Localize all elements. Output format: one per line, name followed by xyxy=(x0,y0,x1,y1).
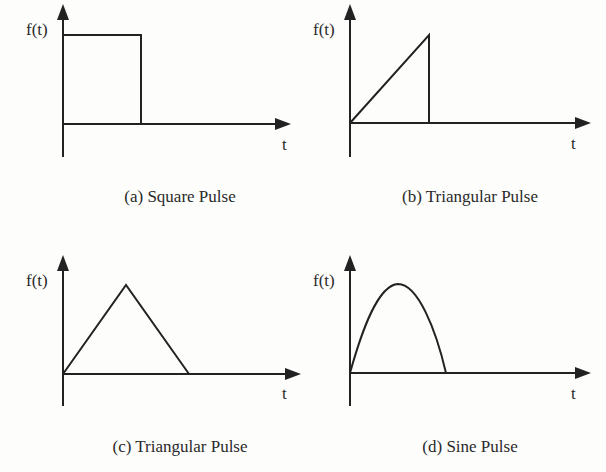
x-axis-arrow-icon xyxy=(275,118,291,130)
x-axis-label: t xyxy=(571,385,576,402)
x-axis-arrow-icon xyxy=(575,117,591,129)
y-axis-arrow-icon xyxy=(57,4,69,20)
panel-a-graph xyxy=(57,4,291,157)
y-axis-label: f(t) xyxy=(313,21,335,38)
y-axis-arrow-icon xyxy=(344,4,356,20)
x-axis-label: t xyxy=(282,136,287,153)
triangle-pulse-curve xyxy=(63,285,189,374)
x-axis-label: t xyxy=(282,385,287,402)
figure-canvas xyxy=(0,0,606,472)
panel-caption: (d) Sine Pulse xyxy=(422,438,517,455)
y-axis-label: f(t) xyxy=(26,21,48,38)
square-pulse-curve xyxy=(63,35,141,124)
pulse-shapes-figure: f(t) t (a) Square Pulse f(t) t (b) Trian… xyxy=(0,0,606,472)
panel-caption: (a) Square Pulse xyxy=(124,188,235,205)
ramp-pulse-curve xyxy=(350,35,429,123)
panel-caption: (b) Triangular Pulse xyxy=(402,188,538,205)
y-axis-label: f(t) xyxy=(26,272,48,289)
x-axis-arrow-icon xyxy=(285,368,301,380)
x-axis-arrow-icon xyxy=(575,367,591,379)
panel-caption: (c) Triangular Pulse xyxy=(112,438,247,455)
panel-d-graph xyxy=(344,255,591,406)
sine-pulse-curve xyxy=(350,284,446,373)
panel-b-graph xyxy=(344,4,591,157)
x-axis-label: t xyxy=(571,135,576,152)
y-axis-arrow-icon xyxy=(57,255,69,271)
y-axis-label: f(t) xyxy=(313,272,335,289)
y-axis-arrow-icon xyxy=(344,255,356,271)
panel-c-graph xyxy=(57,255,301,406)
